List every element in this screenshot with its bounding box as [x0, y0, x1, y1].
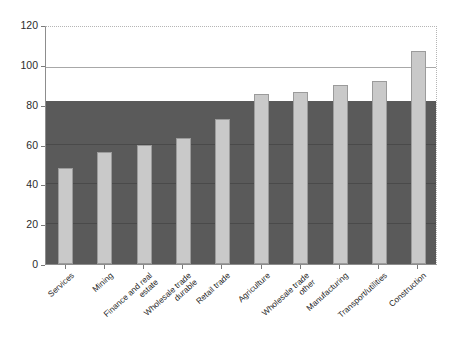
y-axis-tick-label: 80 — [26, 99, 38, 111]
y-axis-tick: 120 — [0, 26, 45, 27]
x-axis-tick-mark — [417, 265, 418, 269]
y-axis-tick: 80 — [0, 106, 45, 107]
y-axis-tick-mark — [41, 66, 45, 67]
bar — [97, 152, 112, 264]
y-axis-tick: 60 — [0, 146, 45, 147]
y-axis-tick-label: 20 — [26, 218, 38, 230]
x-axis-tick-mark — [104, 265, 105, 269]
bar — [333, 85, 348, 264]
y-axis-tick: 20 — [0, 225, 45, 226]
bar — [137, 145, 152, 265]
y-axis-tick-label: 100 — [20, 59, 38, 71]
bar — [254, 94, 269, 264]
plot-area — [45, 26, 437, 265]
y-axis-tick-label: 40 — [26, 178, 38, 190]
y-axis-tick-mark — [41, 146, 45, 147]
x-axis-tick-mark — [339, 265, 340, 269]
bar — [176, 138, 191, 264]
y-axis-tick-mark — [41, 185, 45, 186]
y-axis-tick-mark — [41, 106, 45, 107]
y-axis-tick-label: 60 — [26, 139, 38, 151]
bar — [372, 81, 387, 264]
x-axis-tick-label: Construction — [356, 271, 429, 337]
y-axis-tick-mark — [41, 225, 45, 226]
bar — [215, 119, 230, 264]
y-axis-tick: 100 — [0, 66, 45, 67]
x-axis-tick-mark — [300, 265, 301, 269]
x-axis-tick-mark — [378, 265, 379, 269]
x-axis-tick-label: Transport/utilities — [316, 271, 389, 337]
bar — [58, 168, 73, 264]
x-axis-tick-label: Services — [3, 271, 76, 337]
bar-chart-figure: 020406080100120 ServicesMiningFinance an… — [0, 0, 449, 337]
y-axis-tick: 40 — [0, 185, 45, 186]
x-axis-tick-mark — [221, 265, 222, 269]
x-axis: ServicesMiningFinance and real estateWho… — [0, 265, 449, 337]
bar-series — [46, 27, 436, 264]
x-axis-tick-mark — [261, 265, 262, 269]
x-axis-tick-mark — [143, 265, 144, 269]
y-axis-tick-mark — [41, 26, 45, 27]
bar — [411, 51, 426, 264]
bar — [293, 92, 308, 264]
x-axis-tick-mark — [65, 265, 66, 269]
y-axis-tick-label: 120 — [20, 19, 38, 31]
x-axis-tick-mark — [182, 265, 183, 269]
